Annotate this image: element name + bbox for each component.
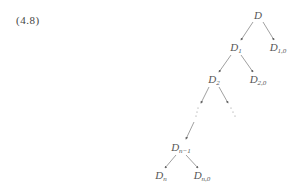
node-Dn: Dn <box>155 169 166 183</box>
node-D2: D2 <box>208 73 219 87</box>
node-D2-0: D2,0 <box>250 73 267 87</box>
node-D1: D1 <box>230 41 241 55</box>
tree-diagram-edges <box>0 0 305 186</box>
node-Dn-minus-1: Dn−1 <box>171 141 191 155</box>
node-D1-0: D1,0 <box>270 41 287 55</box>
node-Dn-0: Dn,0 <box>194 169 211 183</box>
node-D: D <box>254 9 262 21</box>
